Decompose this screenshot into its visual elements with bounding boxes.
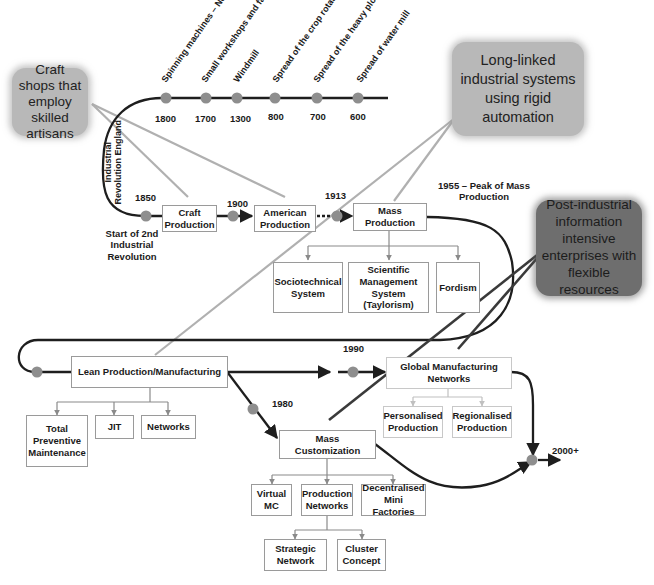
milestone-dot-1913 — [332, 211, 343, 222]
second-revolution-label: Start of 2nd Industrial Revolution — [102, 228, 162, 262]
year-1800: 1800 — [155, 113, 176, 124]
milestone-dot-1700 — [201, 93, 212, 104]
callout-post-industrial: Post-industrial information intensive en… — [536, 200, 642, 296]
callout-craft-shops: Craft shops that employ skilled artisans — [12, 68, 88, 136]
box-production-networks: Production Networks — [301, 484, 353, 516]
milestone-dot-1300 — [232, 93, 243, 104]
year-600: 600 — [350, 111, 366, 122]
year-1980: 1980 — [272, 398, 293, 409]
milestone-dot-700 — [312, 93, 323, 104]
box-mass-customization: Mass Customization — [279, 430, 376, 459]
box-networks: Networks — [141, 415, 196, 439]
industrial-revolution-label: Industrial Revolution England — [103, 119, 124, 205]
box-cluster-concept: Cluster Concept — [337, 539, 386, 571]
year-1913: 1913 — [325, 190, 346, 201]
box-jit: JIT — [95, 415, 134, 439]
box-lean-production: Lean Production/Manufacturing — [71, 356, 228, 388]
year-800: 800 — [268, 111, 284, 122]
milestone-dot-lean-start — [32, 367, 43, 378]
box-regionalised-production: Regionalised Production — [452, 406, 512, 438]
box-craft-production: Craft Production — [162, 205, 217, 232]
milestone-dot-1800 — [161, 93, 172, 104]
box-global-manufacturing: Global Manufacturing Networks — [386, 357, 512, 389]
year-700: 700 — [310, 111, 326, 122]
callout-long-linked: Long-linked industrial systems using rig… — [452, 42, 584, 136]
milestone-dot-1900 — [228, 211, 239, 222]
year-1700: 1700 — [195, 113, 216, 124]
milestone-dot-600 — [353, 93, 364, 104]
box-strategic-network: Strategic Network — [264, 539, 327, 571]
year-1850: 1850 — [135, 192, 156, 203]
box-mass-production: Mass Production — [353, 203, 427, 231]
milestone-dot-1980 — [248, 404, 259, 415]
box-american-production: American Production — [254, 205, 316, 232]
box-virtual-mc: Virtual MC — [251, 484, 292, 516]
milestone-dot-1990 — [348, 367, 359, 378]
milestone-dot-2000 — [527, 455, 538, 466]
box-scientific-management: Scientific Management System (Taylorism) — [348, 262, 429, 313]
milestone-dot-800 — [270, 93, 281, 104]
peak-mass-production-label: 1955 – Peak of Mass Production — [438, 180, 530, 203]
box-personalised-production: Personalised Production — [383, 406, 443, 438]
year-1990: 1990 — [343, 343, 364, 354]
milestone-dot-1850 — [141, 211, 152, 222]
box-decentralised-mini-factories: Decentralised Mini Factories — [361, 484, 426, 516]
box-fordism: Fordism — [436, 262, 480, 313]
box-total-preventive-maintenance: Total Preventive Maintenance — [26, 415, 88, 467]
year-1900: 1900 — [227, 198, 248, 209]
manufacturing-evolution-diagram: Spinning machines – New factories Small … — [0, 0, 654, 585]
year-2000-plus: 2000+ — [552, 445, 579, 456]
year-1300: 1300 — [230, 113, 251, 124]
box-sociotechnical: Sociotechnical System — [273, 262, 343, 313]
